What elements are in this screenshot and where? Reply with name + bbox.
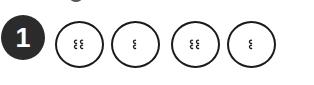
four-hole-button-icon [171, 21, 220, 68]
step-number: 1 [15, 25, 30, 52]
two-hole-button-icon [227, 21, 276, 68]
step-number-badge: 1 [1, 15, 45, 60]
two-hole-button-icon [111, 21, 160, 68]
holes-icon [113, 23, 158, 66]
four-hole-button-icon [55, 21, 104, 68]
decorative-mark [70, 0, 82, 2]
holes-icon [57, 23, 102, 66]
holes-icon [173, 23, 218, 66]
holes-icon [229, 23, 274, 66]
